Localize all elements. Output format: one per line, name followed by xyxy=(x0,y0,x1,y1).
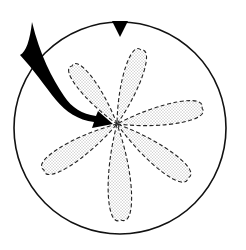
diagram-canvas xyxy=(0,0,246,250)
rotation-diagram xyxy=(0,0,246,250)
petal-lower-left xyxy=(41,124,117,175)
petals-group xyxy=(41,49,203,221)
curved-arrow-icon xyxy=(20,22,113,128)
petal-bottom xyxy=(108,124,132,221)
top-marker-triangle-icon xyxy=(112,21,128,37)
